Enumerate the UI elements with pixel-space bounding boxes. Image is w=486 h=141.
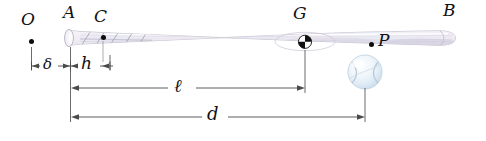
- dimension-lines: [0, 0, 486, 141]
- figure-canvas: O A C G P B: [0, 0, 486, 141]
- dimension-label-h: h: [81, 55, 92, 72]
- dimension-label-delta: δ: [43, 57, 52, 72]
- dimension-label-d: d: [207, 105, 219, 123]
- dimension-label-ell: ℓ: [174, 77, 182, 95]
- dimension-ell: [71, 85, 305, 91]
